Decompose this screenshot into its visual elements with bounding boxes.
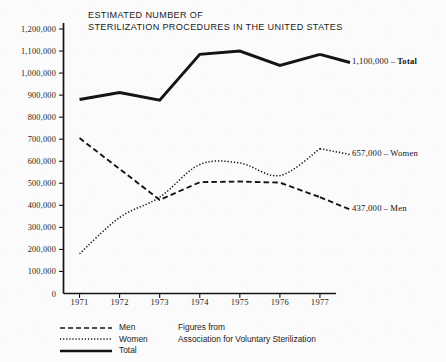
chart-series-group <box>80 51 320 254</box>
annotation-total-value: 1,100,000 <box>352 56 389 66</box>
series-line-men <box>80 138 320 200</box>
annotation-men-value: 437,000 <box>352 203 382 213</box>
chart-page: ESTIMATED NUMBER OF STERILIZATION PROCED… <box>0 0 446 362</box>
chart-legend: Men Women Total <box>60 322 148 357</box>
legend-item-women: Women <box>60 334 148 346</box>
series-line-total <box>80 51 320 100</box>
legend-swatch-dashed-icon <box>60 324 112 332</box>
leader-line-men <box>320 197 350 209</box>
leader-line-total <box>320 54 350 62</box>
legend-item-men: Men <box>60 322 148 334</box>
source-note: Figures from Association for Voluntary S… <box>178 322 316 345</box>
source-note-line-2: Association for Voluntary Sterilization <box>178 334 316 346</box>
legend-label-men: Men <box>119 322 135 334</box>
chart-plot-area <box>0 0 446 362</box>
source-note-line-1: Figures from <box>178 322 316 334</box>
legend-label-total: Total <box>119 345 137 357</box>
chart-axes <box>59 23 336 298</box>
annotation-men: 437,000–Men <box>352 203 407 213</box>
legend-item-total: Total <box>60 345 148 357</box>
legend-swatch-solid-icon <box>60 347 112 355</box>
series-line-women <box>80 149 320 254</box>
annotation-total-dash: – <box>389 56 398 66</box>
annotation-women: 657,000–Women <box>352 148 418 158</box>
annotation-women-dash: – <box>382 148 391 158</box>
legend-swatch-dotted-icon <box>60 335 112 343</box>
annotation-leaders <box>320 54 350 209</box>
annotation-men-dash: – <box>382 203 391 213</box>
annotation-total: 1,100,000–Total <box>352 56 417 66</box>
annotation-women-series: Women <box>390 148 418 158</box>
legend-label-women: Women <box>119 334 148 346</box>
annotation-total-series: Total <box>397 56 417 66</box>
leader-line-women <box>320 149 350 155</box>
annotation-men-series: Men <box>390 203 407 213</box>
annotation-women-value: 657,000 <box>352 148 382 158</box>
